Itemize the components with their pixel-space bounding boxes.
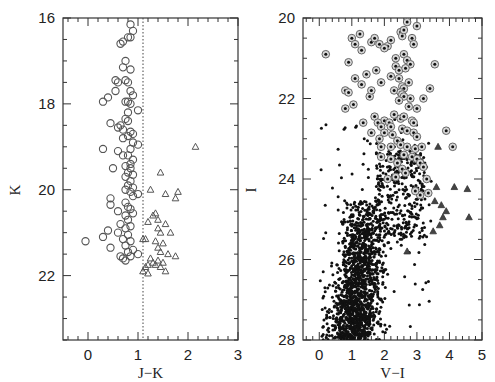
x-tick-label: 3 [234, 346, 242, 363]
data-points [319, 18, 472, 341]
y-tick-label: 16 [38, 9, 55, 26]
y-axis-label: K [7, 184, 23, 195]
x-tick-label: 5 [478, 346, 486, 363]
y-tick-label: 24 [278, 170, 295, 187]
y-tick-label: 20 [278, 9, 295, 26]
y-tick-label: 20 [38, 181, 55, 198]
x-tick-label: 0 [315, 346, 323, 363]
x-tick-label: 3 [413, 346, 421, 363]
x-tick-label: 1 [348, 346, 356, 363]
left-panel-k-vs-jk: 012316182022J−KK [7, 9, 242, 381]
plot-frame [63, 18, 238, 340]
y-tick-label: 22 [278, 90, 295, 107]
y-tick-label: 28 [278, 331, 295, 348]
x-tick-label: 1 [134, 346, 142, 363]
x-tick-label: 0 [84, 346, 92, 363]
y-tick-label: 22 [38, 267, 55, 284]
x-axis-label: V−I [380, 365, 404, 381]
data-points [82, 21, 199, 276]
figure: 012316182022J−KK 0123452022242628V−II [0, 0, 495, 382]
y-axis-label: I [243, 188, 259, 193]
y-tick-label: 18 [38, 95, 55, 112]
x-tick-label: 2 [380, 346, 388, 363]
right-panel-i-vs-vi: 0123452022242628V−II [243, 9, 486, 381]
x-tick-label: 4 [445, 346, 453, 363]
y-tick-label: 26 [278, 251, 295, 268]
x-tick-label: 2 [184, 346, 192, 363]
x-axis-label: J−K [138, 365, 163, 381]
